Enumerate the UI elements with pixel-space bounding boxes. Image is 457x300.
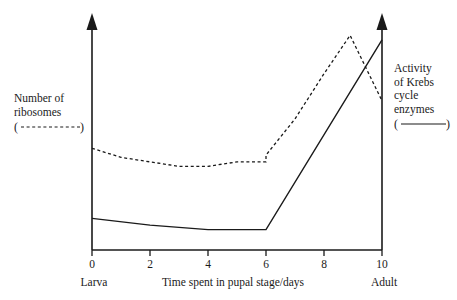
series-line-krebs [92, 40, 382, 230]
chart-canvas [0, 0, 457, 300]
stage-label-adult: Adult [371, 276, 397, 288]
stage-label-larva: Larva [81, 276, 108, 288]
xtick-label-0: 0 [89, 258, 95, 270]
right-axis [377, 13, 388, 250]
legend-krebs: Activity of Krebs cycle enzymes ( ) [394, 62, 456, 131]
x-axis [92, 250, 382, 256]
legend-krebs-line1: Activity [394, 62, 456, 76]
svg-text:): ) [80, 120, 84, 134]
xtick-label-10: 10 [376, 258, 388, 270]
legend-ribosomes-line2: ribosomes [14, 106, 92, 120]
legend-krebs-line2: of Krebs [394, 76, 456, 90]
xtick-label-8: 8 [321, 258, 327, 270]
legend-krebs-line4: enzymes [394, 103, 456, 117]
series-line-ribosomes [92, 35, 382, 166]
chart-page: Number of ribosomes ( ) Activity of Kreb… [0, 0, 457, 300]
xtick-label-6: 6 [263, 258, 269, 270]
legend-ribosomes: Number of ribosomes ( ) [14, 92, 92, 134]
dashed-line-key-icon: ( ) [14, 120, 92, 134]
xtick-label-2: 2 [147, 258, 153, 270]
svg-text:): ) [446, 117, 450, 131]
solid-line-key-icon: ( ) [394, 117, 456, 131]
legend-ribosomes-line1: Number of [14, 92, 92, 106]
legend-krebs-line3: cycle [394, 89, 456, 103]
x-axis-title: Time spent in pupal stage/days [162, 276, 304, 288]
xtick-label-4: 4 [205, 258, 211, 270]
svg-text:(: ( [14, 120, 18, 134]
svg-text:(: ( [394, 117, 398, 131]
